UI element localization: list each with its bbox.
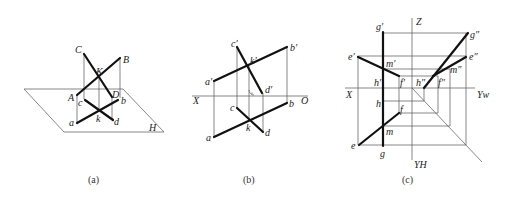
label-axis-Z: Z xyxy=(416,16,422,27)
label-axis-Yw: Yw xyxy=(477,89,490,100)
label-e-dbl: e″ xyxy=(469,51,478,62)
label-d: d xyxy=(114,116,120,127)
label-plane-H: H xyxy=(148,122,157,133)
label-e: e xyxy=(351,140,356,151)
label-k-prime: k′ xyxy=(250,55,257,66)
label-b: b xyxy=(289,98,294,109)
diagram-canvas: C B K A D c b k a d H (a) c′ b′ k′ a′ d′ xyxy=(0,0,508,197)
label-b-prime: b′ xyxy=(290,42,298,53)
plane-h xyxy=(24,89,164,132)
label-K: K xyxy=(95,66,104,77)
figure-c: Z X Yw YH g′ g″ e′ e″ m′ m″ h′ h″ f′ f″ … xyxy=(345,16,490,186)
label-c: c xyxy=(78,97,83,108)
label-k: k xyxy=(96,113,101,124)
label-axis-YH: YH xyxy=(414,159,428,170)
label-D: D xyxy=(111,89,120,100)
label-a-prime: a′ xyxy=(205,76,213,87)
projection-diagram: C B K A D c b k a d H (a) c′ b′ k′ a′ d′ xyxy=(0,0,508,197)
label-c-prime: c′ xyxy=(231,38,238,49)
axis-diagonal-45 xyxy=(412,88,482,162)
label-f-prime: f′ xyxy=(400,77,406,88)
label-C: C xyxy=(75,44,82,55)
label-g-prime: g′ xyxy=(376,21,384,32)
label-axis-O: O xyxy=(301,95,308,106)
figure-b: c′ b′ k′ a′ d′ c b k a d X O (b) xyxy=(192,38,308,186)
label-a: a xyxy=(206,132,211,143)
label-g: g xyxy=(380,148,385,159)
label-a: a xyxy=(69,117,74,128)
label-c: c xyxy=(230,102,235,113)
label-m-dbl: m″ xyxy=(450,64,462,75)
label-e-prime: e′ xyxy=(348,51,355,62)
label-axis-X: X xyxy=(192,95,200,106)
label-h-dbl: h″ xyxy=(416,77,426,88)
label-b: b xyxy=(121,95,126,106)
line-c-prime-d-prime xyxy=(237,47,262,93)
label-m-prime: m′ xyxy=(386,58,396,69)
label-B: B xyxy=(123,54,129,65)
label-m: m xyxy=(386,126,393,137)
label-d-prime: d′ xyxy=(265,84,273,95)
figure-a: C B K A D c b k a d H (a) xyxy=(24,44,164,186)
label-k: k xyxy=(246,122,251,133)
label-h: h xyxy=(376,98,381,109)
right-angle-mark xyxy=(249,90,254,95)
label-g-dbl: g″ xyxy=(470,29,480,40)
label-f-dbl: f″ xyxy=(438,77,446,88)
caption-a: (a) xyxy=(88,174,99,186)
caption-b: (b) xyxy=(243,174,255,186)
label-A: A xyxy=(67,92,75,103)
caption-c: (c) xyxy=(402,174,413,186)
label-d: d xyxy=(265,127,271,138)
label-axis-X: X xyxy=(345,89,353,100)
label-h-prime: h′ xyxy=(374,77,382,88)
right-angle-dot xyxy=(251,92,252,93)
